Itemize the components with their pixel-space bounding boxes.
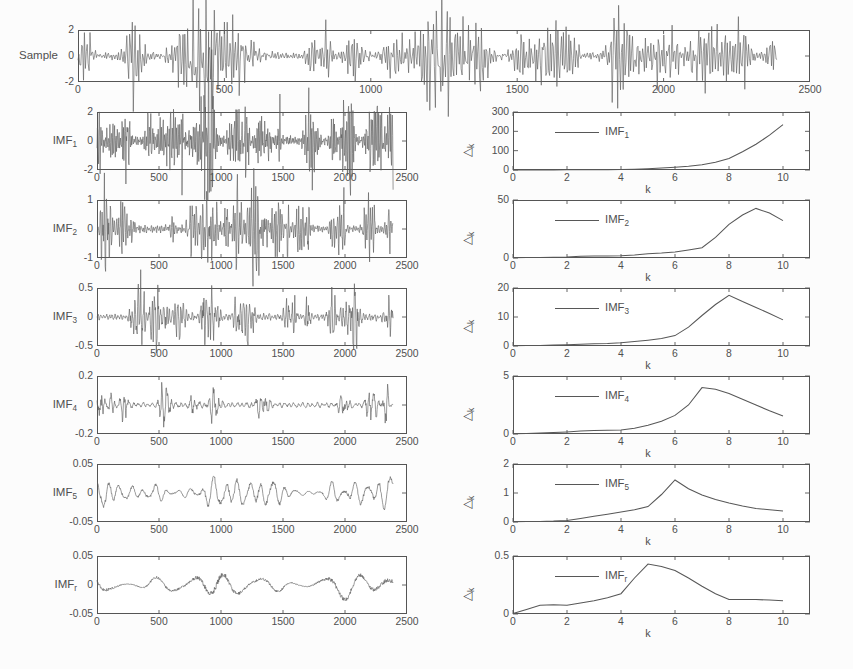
x-tick-label: 500	[135, 437, 183, 447]
delta-k-panel-4	[513, 376, 810, 434]
y-tick-label: 200	[473, 126, 509, 136]
x-tick-label: 1500	[259, 525, 307, 535]
signal-trace	[97, 476, 393, 510]
x-axis-label: k	[636, 272, 660, 283]
delta-k-curve	[513, 208, 783, 257]
delta-k-curve	[513, 125, 783, 170]
x-tick-label: 2000	[321, 261, 369, 271]
signal-trace	[97, 382, 393, 427]
imf-signal-panel-1	[97, 112, 407, 170]
y-axis-label: △k	[461, 408, 476, 421]
x-tick-label: 6	[651, 525, 699, 535]
x-tick-label: 1500	[259, 173, 307, 183]
x-tick-label: 2	[543, 173, 591, 183]
x-tick-label: 2	[543, 261, 591, 271]
y-axis-label: △k	[461, 496, 476, 509]
x-tick-label: 0	[73, 525, 121, 535]
imf-signal-panel-6	[97, 556, 407, 614]
x-tick-label: 10	[759, 261, 807, 271]
y-axis-label: △k	[461, 232, 476, 245]
x-axis-label: k	[636, 184, 660, 195]
imf-signal-panel-2	[97, 200, 407, 258]
delta-k-curve	[513, 388, 783, 434]
imf-signal-panel-5	[97, 464, 407, 522]
x-tick-label: 500	[135, 349, 183, 359]
plot-legend: IMF4	[605, 390, 629, 404]
x-tick-label: 4	[597, 349, 645, 359]
x-axis-label: k	[636, 536, 660, 547]
x-tick-label: 6	[651, 349, 699, 359]
y-axis-label: △k	[461, 588, 476, 601]
x-tick-label: 2500	[383, 617, 431, 627]
x-tick-label: 8	[705, 525, 753, 535]
y-axis-label: △k	[461, 144, 476, 157]
y-tick-label: 2	[55, 107, 93, 117]
y-tick-label: 20	[473, 283, 509, 293]
y-tick-label: 0.5	[55, 283, 93, 293]
x-tick-label: 2000	[321, 525, 369, 535]
x-tick-label: 10	[759, 437, 807, 447]
x-tick-label: 1000	[197, 617, 245, 627]
x-tick-label: 500	[135, 617, 183, 627]
signal-trace	[97, 573, 393, 600]
sample-signal-panel	[78, 30, 810, 82]
x-tick-label: 1500	[259, 261, 307, 271]
x-tick-label: 8	[705, 617, 753, 627]
legend-line-swatch	[555, 308, 599, 309]
x-tick-label: 2000	[640, 85, 688, 95]
x-tick-label: 10	[759, 617, 807, 627]
x-tick-label: 500	[135, 261, 183, 271]
x-tick-label: 500	[200, 85, 248, 95]
x-tick-label: 6	[651, 173, 699, 183]
y-tick-label: 2	[36, 25, 74, 35]
x-tick-label: 0	[489, 525, 537, 535]
x-tick-label: 2500	[383, 437, 431, 447]
x-tick-label: 2000	[321, 437, 369, 447]
sample-row-label: Sample	[0, 50, 58, 62]
x-tick-label: 0	[489, 437, 537, 447]
x-tick-label: 0	[73, 173, 121, 183]
emd-decomposition-figure: 20-205001000150020002500Sample20-2050010…	[0, 0, 853, 669]
x-tick-label: 6	[651, 617, 699, 627]
x-tick-label: 2500	[383, 525, 431, 535]
legend-line-swatch	[555, 396, 599, 397]
y-tick-label: 300	[473, 107, 509, 117]
plot-legend: IMFr	[605, 570, 627, 584]
x-tick-label: 8	[705, 437, 753, 447]
x-tick-label: 500	[135, 173, 183, 183]
x-tick-label: 2500	[383, 173, 431, 183]
x-tick-label: 8	[705, 261, 753, 271]
y-tick-label: 0.05	[55, 551, 93, 561]
y-tick-label: 0.5	[473, 551, 509, 561]
x-tick-label: 1000	[197, 261, 245, 271]
legend-line-swatch	[555, 484, 599, 485]
x-tick-label: 8	[705, 173, 753, 183]
x-tick-label: 0	[73, 617, 121, 627]
x-tick-label: 0	[73, 349, 121, 359]
x-tick-label: 2	[543, 349, 591, 359]
y-tick-label: 0.05	[55, 459, 93, 469]
x-tick-label: 4	[597, 261, 645, 271]
x-tick-label: 1000	[197, 437, 245, 447]
x-tick-label: 10	[759, 525, 807, 535]
x-tick-label: 2	[543, 525, 591, 535]
delta-k-panel-3	[513, 288, 810, 346]
delta-k-panel-6	[513, 556, 810, 614]
x-tick-label: 6	[651, 437, 699, 447]
x-tick-label: 500	[135, 525, 183, 535]
imf-signal-panel-3	[97, 288, 407, 346]
x-tick-label: 2000	[321, 617, 369, 627]
y-tick-label: 5	[473, 371, 509, 381]
x-tick-label: 0	[489, 173, 537, 183]
x-tick-label: 0	[489, 349, 537, 359]
x-tick-label: 2500	[383, 261, 431, 271]
x-tick-label: 1500	[259, 437, 307, 447]
plot-legend: IMF1	[605, 126, 629, 140]
x-tick-label: 1500	[493, 85, 541, 95]
x-tick-label: 2000	[321, 173, 369, 183]
delta-k-panel-1	[513, 112, 810, 170]
imf-row-label-2: IMF2	[23, 223, 77, 238]
delta-k-curve	[513, 564, 783, 613]
x-tick-label: 2000	[321, 349, 369, 359]
imf-row-label-1: IMF1	[23, 135, 77, 150]
